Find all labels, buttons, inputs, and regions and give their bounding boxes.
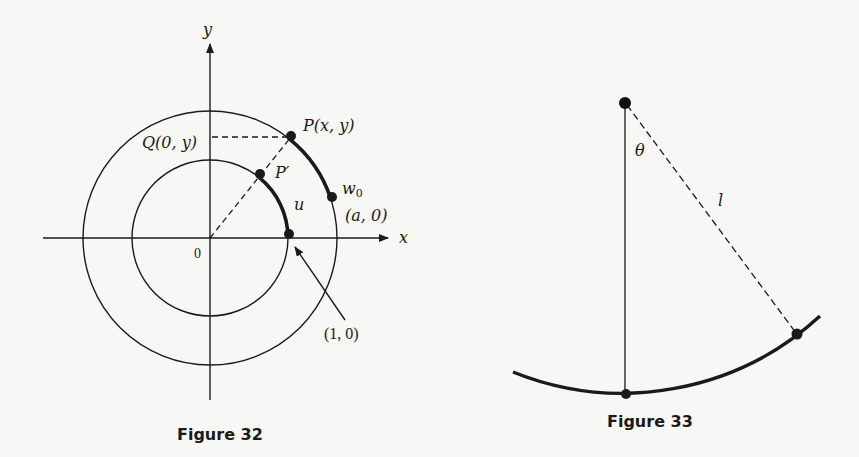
outer-bold-arc bbox=[290, 139, 331, 199]
displaced-string-dashed bbox=[627, 105, 796, 333]
inner-bold-arc-u bbox=[259, 177, 288, 238]
point-1-0-dot bbox=[284, 229, 294, 239]
label-w0: w0 bbox=[342, 179, 363, 200]
pendulum-arc bbox=[513, 316, 820, 393]
caption-figure-33: Figure 33 bbox=[607, 412, 693, 431]
label-w0-sub: 0 bbox=[356, 187, 363, 200]
label-origin: 0 bbox=[194, 246, 201, 261]
figure-33: θ l Figure 33 bbox=[513, 97, 820, 431]
diagram-canvas: y x 0 P(x, y) Q(0, y) P′ w0 (a, 0) u (1,… bbox=[0, 0, 859, 457]
label-P: P(x, y) bbox=[302, 116, 354, 135]
caption-figure-32: Figure 32 bbox=[177, 425, 263, 444]
figure-32: y x 0 P(x, y) Q(0, y) P′ w0 (a, 0) u (1,… bbox=[43, 20, 408, 444]
label-x-axis: x bbox=[399, 228, 408, 247]
label-theta: θ bbox=[635, 141, 645, 160]
label-Q: Q(0, y) bbox=[142, 133, 197, 152]
point-P-prime-dot bbox=[255, 169, 265, 179]
bottom-point-dot bbox=[621, 389, 631, 399]
pivot-dot bbox=[619, 97, 631, 109]
point-P-dot bbox=[286, 131, 296, 141]
bob-dot bbox=[792, 329, 803, 340]
label-a-0: (a, 0) bbox=[345, 206, 387, 225]
radius-dashed-line bbox=[210, 137, 291, 238]
label-1-0: (1, 0) bbox=[324, 325, 359, 343]
label-y-axis: y bbox=[202, 20, 213, 39]
label-u: u bbox=[294, 195, 304, 214]
point-w0-dot bbox=[327, 192, 337, 202]
pointer-arrow bbox=[295, 247, 345, 320]
label-P-prime: P′ bbox=[274, 163, 290, 182]
label-w0-main: w bbox=[342, 179, 356, 198]
label-l: l bbox=[718, 191, 723, 210]
